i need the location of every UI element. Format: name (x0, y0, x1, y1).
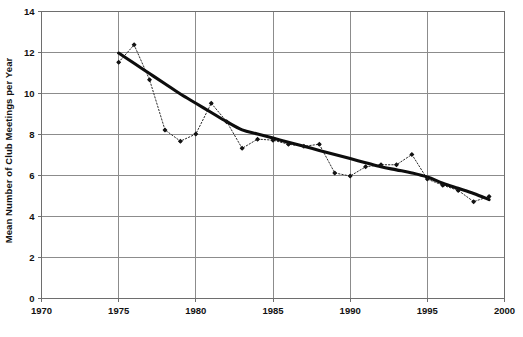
data-point-marker (193, 132, 198, 137)
data-point-marker (240, 146, 245, 151)
x-tick-label: 1990 (340, 305, 361, 316)
y-tick-label: 10 (24, 88, 35, 99)
x-tick-label: 1975 (108, 305, 130, 316)
x-tick-label: 1985 (262, 305, 284, 316)
data-point-marker (317, 142, 322, 147)
y-tick-label: 6 (29, 170, 34, 181)
x-axis-ticks: 1970197519801985199019952000 (31, 298, 515, 316)
data-point-marker (209, 101, 214, 106)
y-axis-ticks: 02468101214 (24, 6, 42, 304)
data-point-marker (116, 60, 121, 65)
data-point-marker (255, 137, 260, 142)
chart-container: Mean Number of Club Meetings per Year 02… (0, 0, 523, 337)
y-tick-label: 0 (29, 293, 34, 304)
y-tick-label: 2 (29, 252, 34, 263)
x-tick-label: 1980 (185, 305, 206, 316)
x-tick-label: 2000 (494, 305, 515, 316)
data-point-marker (471, 199, 476, 204)
y-tick-label: 4 (29, 211, 35, 222)
y-tick-label: 14 (24, 6, 35, 17)
x-tick-label: 1995 (417, 305, 439, 316)
x-tick-label: 1970 (31, 305, 52, 316)
chart-plot: 02468101214 1970197519801985199019952000 (0, 0, 523, 337)
data-point-marker (147, 77, 152, 82)
gridlines (42, 11, 505, 298)
y-tick-label: 12 (24, 47, 35, 58)
data-series-trend (119, 53, 489, 200)
data-point-marker (363, 164, 368, 169)
y-tick-label: 8 (29, 129, 34, 140)
data-point-marker (348, 174, 353, 179)
data-point-marker (178, 139, 183, 144)
